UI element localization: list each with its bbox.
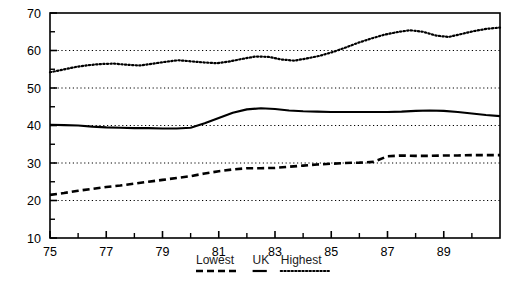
y-tick-label-40: 40 xyxy=(27,119,41,133)
legend-label-uk: UK xyxy=(253,253,270,267)
legend-label-highest: Highest xyxy=(281,253,322,267)
x-tick-label-89: 89 xyxy=(437,245,451,259)
x-tick-label-85: 85 xyxy=(324,245,338,259)
chart-svg: 10203040506070 7577798183858789 LowestUK… xyxy=(0,0,518,287)
y-tick-label-10: 10 xyxy=(27,232,41,246)
x-tick-label-79: 79 xyxy=(156,245,170,259)
x-tick-label-87: 87 xyxy=(381,245,395,259)
y-tick-label-30: 30 xyxy=(27,157,41,171)
legend-label-lowest: Lowest xyxy=(196,253,235,267)
x-tick-label-77: 77 xyxy=(99,245,113,259)
line-chart: 10203040506070 7577798183858789 LowestUK… xyxy=(0,0,518,287)
y-tick-label-20: 20 xyxy=(27,194,41,208)
y-tick-label-70: 70 xyxy=(27,7,41,21)
x-tick-label-75: 75 xyxy=(43,245,57,259)
chart-background xyxy=(0,0,518,287)
y-tick-label-60: 60 xyxy=(27,44,41,58)
y-tick-label-50: 50 xyxy=(27,82,41,96)
